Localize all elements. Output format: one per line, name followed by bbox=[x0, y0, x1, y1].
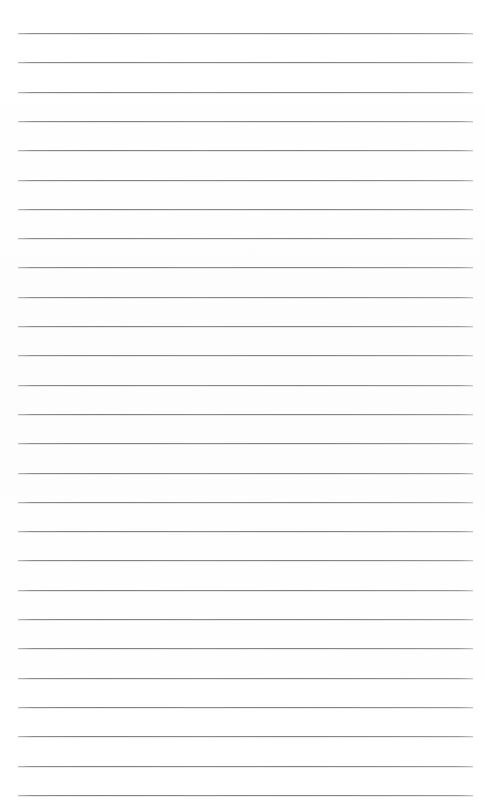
notepad-page bbox=[0, 0, 485, 808]
writing-area[interactable] bbox=[18, 14, 473, 800]
